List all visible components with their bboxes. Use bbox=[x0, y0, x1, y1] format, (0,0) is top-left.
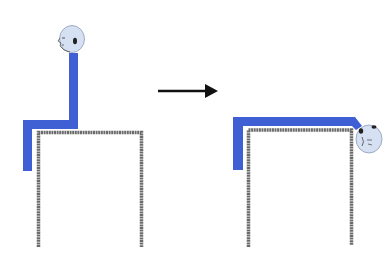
panel-after bbox=[233, 117, 382, 247]
table-before bbox=[39, 133, 142, 248]
body-lying bbox=[233, 117, 362, 170]
body-sitting bbox=[23, 53, 78, 171]
diagram-canvas bbox=[0, 0, 392, 262]
panel-before bbox=[23, 26, 142, 248]
head-icon-upright bbox=[58, 26, 85, 53]
head-icon-hanging bbox=[356, 125, 382, 153]
transition-arrow-icon bbox=[158, 84, 218, 98]
table-after bbox=[249, 130, 352, 247]
